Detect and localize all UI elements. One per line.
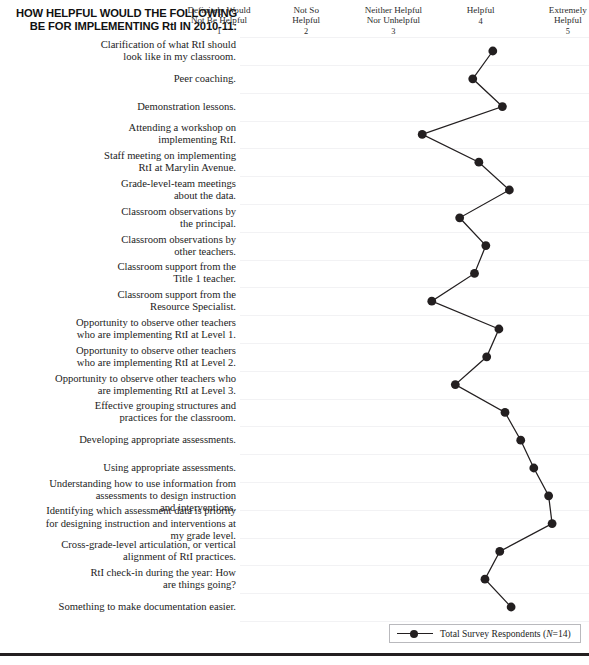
scale-tick-number: 3	[338, 27, 448, 37]
category-label: Using appropriate assessments.	[103, 462, 236, 474]
category-label: Effective grouping structures and practi…	[95, 400, 236, 424]
data-point-marker	[482, 352, 491, 361]
plot-area	[240, 40, 589, 618]
data-point-marker	[507, 603, 516, 612]
data-point-marker	[468, 74, 477, 83]
category-label: Developing appropriate assessments.	[79, 434, 236, 446]
scale-tick-label: ExtremelyHelpful	[513, 6, 589, 26]
data-point-marker	[481, 575, 490, 584]
data-point-marker	[495, 547, 504, 556]
category-label: Attending a workshop on implementing RtI…	[129, 122, 236, 146]
category-label: Cross-grade-level articulation, or verti…	[61, 539, 236, 563]
category-label: Classroom observations by other teachers…	[121, 234, 236, 258]
series-line-total-survey-respondents	[240, 40, 589, 618]
data-point-marker	[544, 491, 553, 500]
data-point-marker	[548, 519, 557, 528]
data-point-marker	[427, 297, 436, 306]
data-point-marker	[481, 241, 490, 250]
category-label: Opportunity to observe other teachers wh…	[76, 317, 236, 341]
data-point-marker	[529, 464, 538, 473]
legend-entry-label: Total Survey Respondents (N=14)	[440, 628, 571, 639]
data-point-marker	[488, 47, 497, 56]
data-point-marker	[474, 158, 483, 167]
category-label: Opportunity to observe other teachers wh…	[55, 373, 236, 397]
category-label-column: Clarification of what RtI should look li…	[0, 40, 240, 618]
category-label: Classroom observations by the principal.	[121, 206, 236, 230]
data-point-marker	[498, 102, 507, 111]
scale-axis-header: Definitely WouldNot Be Helpful1Not SoHel…	[0, 6, 589, 40]
survey-line-chart: HOW HELPFUL WOULD THE FOLLOWING BE FOR I…	[0, 0, 589, 665]
data-point-marker	[501, 408, 510, 417]
category-label: Staff meeting on implementing RtI at Mar…	[104, 150, 236, 174]
data-point-marker	[516, 436, 525, 445]
data-point-marker	[455, 213, 464, 222]
data-point-marker	[495, 325, 504, 334]
scale-tick-number: 5	[513, 27, 589, 37]
gridline	[240, 37, 589, 38]
category-label: Identifying which assessment data is pri…	[46, 505, 236, 541]
gridline	[240, 621, 589, 622]
series-polyline	[422, 51, 552, 607]
category-label: Something to make documentation easier.	[59, 601, 236, 613]
data-point-marker	[451, 380, 460, 389]
legend-marker-icon	[397, 629, 433, 639]
category-label: Classroom support from the Title 1 teach…	[117, 261, 236, 285]
category-label: Demonstration lessons.	[137, 101, 236, 113]
bottom-rule-divider	[0, 653, 589, 656]
chart-legend: Total Survey Respondents (N=14)	[389, 624, 581, 643]
category-label: Clarification of what RtI should look li…	[101, 39, 236, 63]
scale-tick-5: ExtremelyHelpful5	[513, 6, 589, 37]
category-label: RtI check-in during the year: How are th…	[90, 567, 236, 591]
data-point-marker	[470, 269, 479, 278]
category-label: Classroom support from the Resource Spec…	[117, 289, 236, 313]
category-label: Opportunity to observe other teachers wh…	[76, 345, 236, 369]
category-label: Grade-level-team meetings about the data…	[121, 178, 236, 202]
category-label: Peer coaching.	[174, 73, 236, 85]
data-point-marker	[418, 130, 427, 139]
data-point-marker	[505, 186, 514, 195]
